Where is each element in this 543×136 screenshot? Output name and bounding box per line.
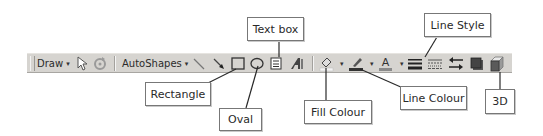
font-colour-dropdown[interactable]: ▾ bbox=[400, 54, 404, 73]
toolbar-grip[interactable] bbox=[30, 56, 35, 71]
cursor-arrow-icon[interactable] bbox=[75, 56, 89, 71]
paint-bucket-icon[interactable] bbox=[319, 56, 334, 72]
autoshapes-label: AutoShapes bbox=[122, 58, 182, 69]
rectangle-icon[interactable] bbox=[230, 56, 246, 71]
line-icon[interactable] bbox=[192, 56, 206, 71]
arrow-style-icon[interactable] bbox=[448, 56, 464, 71]
rotate-icon[interactable] bbox=[93, 56, 107, 71]
callout-oval: Oval bbox=[219, 108, 262, 131]
pen-icon[interactable] bbox=[348, 56, 364, 72]
toolbar-separator bbox=[312, 56, 314, 71]
draw-label: Draw bbox=[37, 58, 63, 69]
autoshapes-menu-button[interactable]: AutoShapes ▾ bbox=[122, 54, 188, 73]
callout-text-box: Text box bbox=[247, 17, 304, 41]
text-box-icon[interactable] bbox=[269, 56, 283, 71]
callout-line-colour: Line Colour bbox=[400, 86, 467, 110]
fill-colour-dropdown[interactable]: ▾ bbox=[340, 54, 344, 73]
callout-fill-colour: Fill Colour bbox=[304, 100, 372, 124]
line-style-icon[interactable] bbox=[407, 56, 423, 71]
3d-cube-icon[interactable] bbox=[489, 55, 505, 72]
callout-rectangle: Rectangle bbox=[145, 82, 211, 106]
shadow-icon[interactable] bbox=[469, 56, 484, 71]
line-colour-dropdown[interactable]: ▾ bbox=[370, 54, 374, 73]
callout-3d: 3D bbox=[485, 89, 515, 114]
callout-line-style: Line Style bbox=[424, 13, 491, 37]
draw-menu-button[interactable]: Draw ▾ bbox=[37, 54, 70, 73]
oval-icon[interactable] bbox=[249, 56, 265, 71]
chevron-down-icon: ▾ bbox=[185, 60, 189, 68]
chevron-down-icon: ▾ bbox=[66, 60, 70, 68]
svg-text:A: A bbox=[382, 56, 390, 69]
arrow-icon[interactable] bbox=[212, 56, 226, 71]
font-color-icon[interactable]: A bbox=[378, 55, 393, 72]
drawing-toolbar: Draw ▾ AutoShapes ▾ bbox=[27, 53, 512, 73]
wordart-icon[interactable] bbox=[289, 56, 305, 71]
toolbar-separator bbox=[114, 56, 116, 71]
dash-style-icon[interactable] bbox=[427, 56, 443, 71]
